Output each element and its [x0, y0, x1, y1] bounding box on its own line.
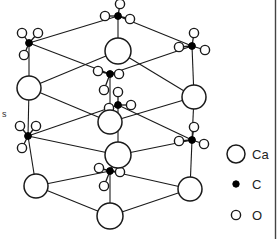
legend-ca-label: Ca	[252, 147, 269, 162]
legend-ca-marker	[227, 145, 245, 163]
oxygen-atom	[99, 85, 108, 94]
legend-c-marker	[233, 181, 239, 187]
oxygen-atom	[99, 181, 108, 190]
carbon-atom	[189, 137, 196, 144]
oxygen-atom	[100, 11, 109, 20]
carbon-atom	[26, 40, 33, 47]
legend: Ca C O	[227, 145, 269, 223]
calcium-atom	[178, 177, 202, 201]
carbon-atom	[107, 168, 114, 175]
oxygen-atom	[189, 122, 198, 131]
oxygen-atom	[115, 167, 124, 176]
oxygen-atom	[17, 143, 26, 152]
crystal-structure-figure: s Ca C O	[0, 0, 280, 239]
oxygen-atom	[113, 87, 122, 96]
oxygen-atom	[126, 100, 135, 109]
bond-line	[29, 88, 110, 122]
oxygen-atom	[15, 121, 24, 130]
carbon-atom	[25, 133, 32, 140]
oxygen-atom	[31, 121, 40, 130]
bond-line	[118, 105, 192, 140]
oxygen-atom	[19, 50, 28, 59]
calcium-atom	[97, 203, 123, 229]
oxygen-atom	[33, 28, 42, 37]
legend-o-label: O	[252, 208, 262, 223]
oxygen-atom	[189, 28, 198, 37]
carbon-atom	[107, 71, 114, 78]
carbon-atom	[115, 102, 122, 109]
calcium-atom	[182, 85, 206, 109]
oxygen-atom	[199, 139, 208, 148]
bond-line	[29, 51, 118, 88]
oxygen-atom	[94, 163, 103, 172]
oxygen-atom	[17, 28, 26, 37]
legend-c-label: C	[252, 177, 261, 192]
calcium-atom	[24, 174, 48, 198]
calcite-structure-diagram: s Ca C O	[0, 0, 280, 239]
carbonate-group	[17, 28, 42, 59]
bond-line	[28, 136, 118, 155]
bond-line	[110, 97, 194, 122]
carbon-atom	[115, 13, 122, 20]
carbon-atom	[189, 43, 196, 50]
oxygen-atom	[115, 0, 124, 9]
calcium-atom	[98, 110, 122, 134]
oxygen-atom	[114, 69, 123, 78]
calcium-atom	[105, 142, 131, 168]
oxygen-atom	[174, 136, 183, 145]
cropped-edge-label: s	[2, 109, 7, 119]
oxygen-atom	[174, 42, 183, 51]
calcium-atom	[17, 76, 41, 100]
calcium-atom	[105, 38, 131, 64]
oxygen-atom	[200, 45, 209, 54]
oxygen-atom	[125, 14, 134, 23]
legend-o-marker	[231, 210, 240, 219]
oxygen-atom	[93, 66, 102, 75]
